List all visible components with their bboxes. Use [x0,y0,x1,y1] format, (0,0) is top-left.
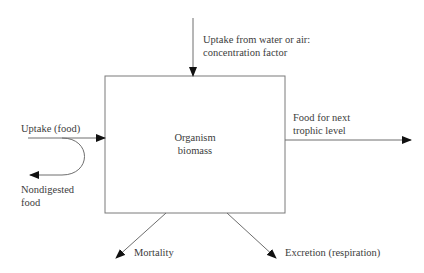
nondigested-label-line2: food [21,197,74,210]
mortality-label: Mortality [134,247,174,260]
excretion-label: Excretion (respiration) [285,247,380,260]
box-label-line1: Organism [155,132,235,145]
nondigested-food-label: Nondigested food [21,184,74,209]
food-next-label-line1: Food for next [293,112,350,125]
nondigested-label-line1: Nondigested [21,184,74,197]
food-next-trophic-label: Food for next trophic level [293,112,350,137]
organism-biomass-label: Organism biomass [155,132,235,157]
top-input-label-line1: Uptake from water or air: [203,34,310,47]
uptake-food-label: Uptake (food) [21,123,80,136]
box-label-line2: biomass [155,145,235,158]
excretion-arrow [227,213,276,258]
top-input-label: Uptake from water or air: concentration … [203,34,310,59]
nondigested-food-arrow [30,138,85,175]
top-input-label-line2: concentration factor [203,47,310,60]
food-next-label-line2: trophic level [293,125,350,138]
